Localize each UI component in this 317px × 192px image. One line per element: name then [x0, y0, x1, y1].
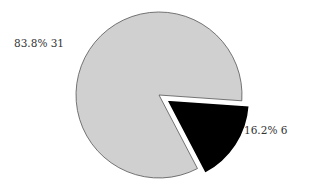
- pie-slices: [76, 12, 249, 178]
- slice-label-small: 16.2% 6: [244, 124, 288, 136]
- slice-label-large: 83.8% 31: [14, 37, 64, 49]
- pie-chart: 83.8% 31 16.2% 6: [0, 0, 317, 192]
